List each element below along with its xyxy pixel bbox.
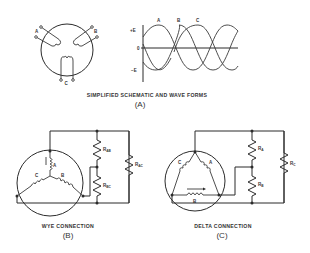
coil-a: A xyxy=(35,26,61,47)
coil-c-label: C xyxy=(65,81,69,86)
coil-b: B xyxy=(73,26,98,47)
delta-coil-a-label: A xyxy=(209,160,213,165)
wye-outer-wire xyxy=(17,131,129,203)
wave-b-label: B xyxy=(177,18,181,23)
resistor-rab xyxy=(93,131,101,167)
delta-mid-wire xyxy=(219,167,252,195)
panel-c-caption: DELTA CONNECTION xyxy=(194,223,251,229)
wave-c-label: C xyxy=(196,18,200,23)
delta-windings: A B C xyxy=(172,152,219,204)
resistor-rac-label: RAC xyxy=(135,162,144,168)
delta-coil-c-label: C xyxy=(178,160,182,165)
wye-coil-c xyxy=(17,176,50,196)
wye-coil-b xyxy=(50,176,83,196)
three-phase-connections-diagram: A B C +E 0 −E xyxy=(0,0,310,253)
wave-a-label: A xyxy=(157,18,161,23)
panel-c-label: (C) xyxy=(216,231,227,240)
wye-coil-b-label: B xyxy=(61,173,65,178)
resistor-ra-label: RA xyxy=(258,146,264,152)
panel-a-caption: SIMPLIFIED SCHEMATIC AND WAVE FORMS xyxy=(87,92,208,98)
wye-coil-a xyxy=(50,151,52,176)
y-label-zero: 0 xyxy=(137,46,140,51)
y-label-positive: +E xyxy=(130,28,136,33)
coil-c: C xyxy=(60,56,75,86)
resistor-ra xyxy=(248,131,256,167)
simplified-schematic: A B C xyxy=(35,24,99,86)
resistor-rb xyxy=(248,167,256,203)
panel-b: A B C RAB RBC RAC WYE CONNECTION (B) xyxy=(16,130,144,241)
panel-b-caption: WYE CONNECTION xyxy=(42,223,94,229)
resistor-rab-label: RAB xyxy=(103,147,112,153)
coil-a-label: A xyxy=(35,29,39,34)
delta-outer-wire xyxy=(172,131,284,203)
wye-stator-circle xyxy=(17,150,83,216)
panel-a: A B C +E 0 −E xyxy=(35,18,238,109)
panel-a-label: (A) xyxy=(135,100,146,109)
resistor-rac xyxy=(125,131,133,203)
wave-forms: +E 0 −E A B C xyxy=(130,18,238,82)
y-label-negative: −E xyxy=(131,68,137,73)
wye-coil-a-label: A xyxy=(53,163,57,168)
panel-c: A B C RA RB RC DELTA CONNECTION (C) xyxy=(165,130,296,241)
wye-coil-c-label: C xyxy=(35,173,39,178)
resistor-rb-label: RB xyxy=(258,182,264,188)
resistor-rbc-label: RBC xyxy=(103,183,112,189)
delta-coil-b xyxy=(172,193,219,195)
panel-b-label: (B) xyxy=(63,231,74,240)
wye-windings: A B C xyxy=(17,151,83,196)
coil-b-label: B xyxy=(94,29,98,34)
resistor-rbc xyxy=(93,167,101,203)
resistor-rc-label: RC xyxy=(290,161,296,167)
